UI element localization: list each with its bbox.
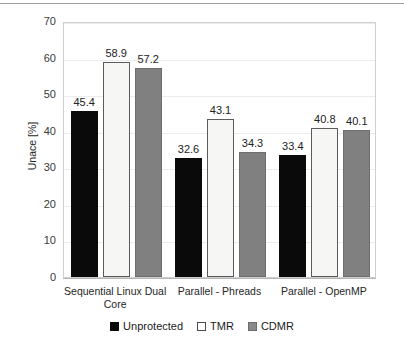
x-axis-label-3: Parallel - OpenMP	[264, 285, 384, 298]
bar-value-label: 34.3	[233, 137, 272, 149]
legend-item-cdmr[interactable]: CDMR	[248, 320, 294, 332]
y-axis-tick-40: 40	[22, 126, 56, 137]
legend-item-unprotected[interactable]: Unprotected	[110, 320, 183, 332]
bar-cdmr-1	[135, 68, 162, 277]
y-axis-title: Unace [%]	[26, 101, 38, 191]
bar-value-label: 45.4	[65, 96, 104, 108]
x-axis-label-1: Sequential Linux Dual Core	[55, 285, 175, 311]
bar-cdmr-2	[239, 152, 266, 277]
bar-tmr-2	[207, 119, 234, 277]
y-axis-tick-30: 30	[22, 162, 56, 173]
y-axis-tick-50: 50	[22, 89, 56, 100]
bar-value-label: 32.6	[169, 143, 208, 155]
outlined-white-square-icon	[197, 322, 206, 331]
plot-area: 45.458.957.232.643.134.333.440.840.1	[63, 22, 376, 278]
y-axis-tick-0: 0	[22, 272, 56, 283]
bar-unprotected-1	[71, 111, 98, 277]
bar-value-label: 40.1	[337, 115, 376, 127]
chart-legend: UnprotectedTMRCDMR	[0, 320, 404, 332]
x-axis-label-2: Parallel - Phreads	[159, 285, 279, 298]
y-axis-tick-20: 20	[22, 199, 56, 210]
legend-item-label: TMR	[210, 320, 234, 332]
bar-tmr-3	[311, 128, 338, 277]
legend-item-label: Unprotected	[123, 320, 183, 332]
bar-value-label: 43.1	[201, 104, 240, 116]
y-axis-tick-10: 10	[22, 235, 56, 246]
gridline-60	[64, 60, 375, 61]
y-axis-tick-60: 60	[22, 53, 56, 64]
legend-item-label: CDMR	[261, 320, 294, 332]
bar-value-label: 57.2	[129, 53, 168, 65]
top-divider-rule	[0, 3, 404, 4]
bar-unprotected-3	[279, 155, 306, 277]
bar-chart-figure: Unace [%] 706050403020100 45.458.957.232…	[0, 0, 404, 348]
bar-tmr-1	[103, 62, 130, 277]
x-axis-line	[63, 278, 376, 279]
bar-cdmr-3	[343, 130, 370, 277]
y-axis-tick-70: 70	[22, 16, 56, 27]
legend-item-tmr[interactable]: TMR	[197, 320, 234, 332]
filled-gray-square-icon	[248, 322, 257, 331]
filled-black-square-icon	[110, 322, 119, 331]
bar-value-label: 33.4	[273, 140, 312, 152]
bar-unprotected-2	[175, 158, 202, 277]
gridline-70	[64, 23, 375, 24]
